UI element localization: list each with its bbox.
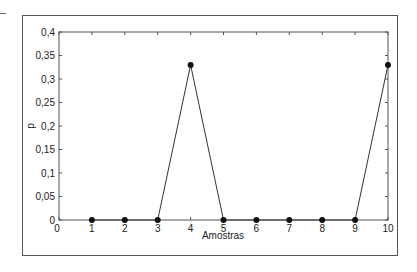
x-axis: 012345678910: [54, 32, 394, 234]
line-chart: 00,050,10,150,20,250,30,350,4 0123456789…: [0, 0, 417, 272]
x-tick-label: 8: [319, 223, 325, 234]
y-axis: 00,050,10,150,20,250,30,350,4: [36, 27, 388, 226]
x-tick-label: 10: [382, 223, 394, 234]
data-point: [385, 62, 391, 68]
y-tick-label: 0,25: [36, 97, 56, 108]
x-tick-label: 3: [155, 223, 161, 234]
x-tick-label: 2: [122, 223, 128, 234]
data-series: [89, 62, 391, 223]
y-tick-label: 0,15: [36, 144, 56, 155]
y-tick-label: 0,2: [41, 121, 55, 132]
data-point: [352, 217, 358, 223]
series-line: [92, 65, 388, 220]
data-point: [253, 217, 259, 223]
y-tick-label: 0,3: [41, 74, 55, 85]
x-tick-label: 6: [254, 223, 260, 234]
y-tick-label: 0,4: [41, 27, 55, 38]
data-point: [89, 217, 95, 223]
y-tick-label: 0,1: [41, 168, 55, 179]
data-point: [286, 217, 292, 223]
y-tick-label: 0,05: [36, 191, 56, 202]
plot-border: [59, 32, 388, 220]
x-tick-label: 4: [188, 223, 194, 234]
x-tick-label: 1: [89, 223, 95, 234]
x-tick-label: 0: [54, 223, 60, 234]
x-tick-label: 9: [352, 223, 358, 234]
plot-area: [59, 32, 388, 220]
x-tick-label: 7: [287, 223, 293, 234]
y-tick-label: 0,35: [36, 50, 56, 61]
data-point: [221, 217, 227, 223]
data-point: [155, 217, 161, 223]
data-point: [319, 217, 325, 223]
y-axis-title: p: [25, 123, 36, 129]
data-point: [122, 217, 128, 223]
data-point: [188, 62, 194, 68]
x-axis-title: Amostras: [202, 230, 244, 241]
